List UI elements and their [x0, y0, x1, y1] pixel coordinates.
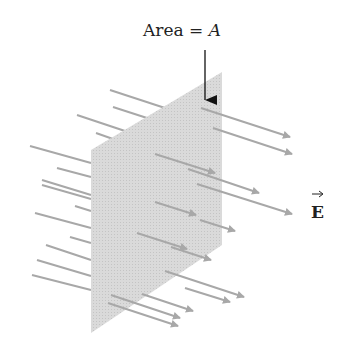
field-line	[96, 133, 113, 139]
field-line	[110, 90, 165, 108]
field-line	[37, 260, 91, 276]
vector-arrow-icon	[311, 190, 324, 198]
area-label: Area = A	[143, 20, 221, 40]
field-line	[77, 115, 128, 132]
electric-field-label: E	[311, 202, 324, 222]
field-line	[70, 237, 91, 243]
flux-diagram	[0, 0, 350, 346]
field-line	[35, 213, 91, 228]
field-line	[32, 275, 91, 290]
field-line	[113, 107, 147, 118]
field-line	[46, 245, 91, 260]
field-line	[30, 146, 91, 163]
field-line	[57, 168, 91, 177]
field-arrow	[213, 128, 292, 154]
field-line	[75, 206, 91, 211]
